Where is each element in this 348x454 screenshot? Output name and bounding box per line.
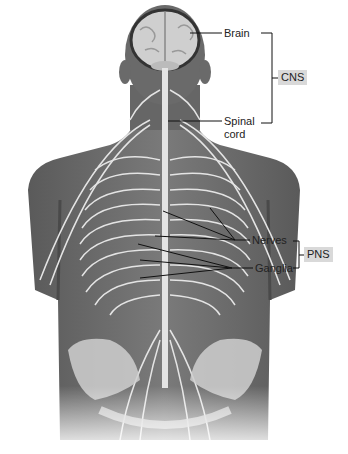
nerves-label: Nerves xyxy=(252,234,287,246)
spinal-cord-label-line2: cord xyxy=(224,128,245,140)
ganglia-label: Ganglia xyxy=(255,262,293,274)
body-illustration xyxy=(0,0,348,454)
cns-badge: CNS xyxy=(278,70,307,85)
brain-label: Brain xyxy=(224,27,250,39)
nervous-system-diagram: Brain Spinal cord CNS Nerves Ganglia PNS xyxy=(0,0,348,454)
pns-badge: PNS xyxy=(304,247,333,262)
spinal-cord-label-line1: Spinal xyxy=(224,115,255,127)
